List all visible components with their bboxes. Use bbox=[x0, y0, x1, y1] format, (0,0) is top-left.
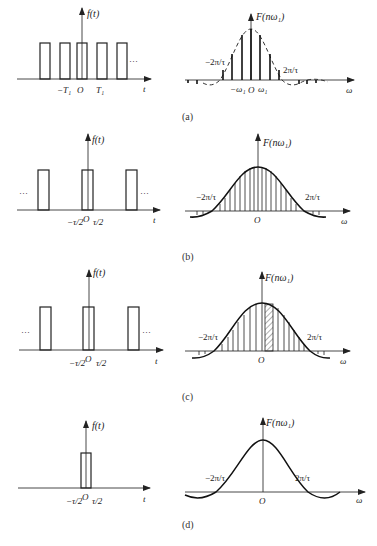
sinc-spectrum bbox=[185, 440, 340, 498]
tick-neg-tau-half: −τ/2 bbox=[67, 217, 84, 227]
x-axis-label: t bbox=[153, 215, 156, 225]
spectrum-plot-b: F(nω₁) −2π/τ 2π/τ O ω bbox=[185, 134, 350, 226]
tick-origin: O bbox=[82, 492, 89, 502]
ellipsis: … bbox=[129, 54, 138, 64]
spectrum-plot-d: F(nω₁) −2π/τ 2π/τ O ω bbox=[185, 417, 365, 506]
ellipsis-right: … bbox=[140, 186, 149, 196]
tick-tau-half: τ/2 bbox=[92, 496, 103, 506]
ellipsis-left: … bbox=[21, 325, 30, 335]
tick-origin: O bbox=[248, 85, 255, 95]
x-axis-label: ω bbox=[346, 85, 352, 95]
caption-c: (c) bbox=[182, 391, 193, 403]
y-axis-label: f(t) bbox=[92, 134, 105, 146]
y-axis-label: f(t) bbox=[92, 420, 105, 432]
panel-a: f(t) … −T₁ O T₁ t bbox=[17, 8, 354, 123]
tick-origin: O bbox=[258, 355, 265, 365]
y-axis-label: F(nω₁) bbox=[255, 11, 285, 23]
x-axis-label: t bbox=[143, 84, 146, 94]
tick-neg-T1: −T₁ bbox=[57, 85, 71, 95]
spectrum-plot-c: F(nω₁) −2π/τ 2π/τ O ω bbox=[185, 272, 350, 366]
spectrum-plot-a: F(nω₁) −2π/τ 2π/τ −ω₁ O ω₁ ω bbox=[185, 11, 354, 95]
x-axis-label: ω bbox=[340, 356, 346, 366]
zero-crossing-pos-label: 2π/τ bbox=[307, 332, 323, 342]
time-plot-c: f(t) … … −τ/2 O τ/2 t bbox=[19, 267, 163, 368]
y-axis-label: F(nω₁) bbox=[264, 272, 294, 284]
caption-b: (b) bbox=[182, 251, 194, 263]
y-axis-label: F(nω₁) bbox=[262, 137, 292, 149]
tick-origin: O bbox=[83, 214, 90, 224]
zero-crossing-pos-label: 2π/τ bbox=[283, 65, 299, 75]
panel-b: f(t) … … −τ/2 O τ/2 t bbox=[17, 134, 350, 263]
time-plot-d: f(t) −τ/2 O τ/2 t bbox=[18, 420, 150, 506]
pulse-train bbox=[38, 170, 137, 210]
tick-tau-half: τ/2 bbox=[93, 217, 104, 227]
time-plot-a: f(t) … −T₁ O T₁ t bbox=[17, 8, 151, 95]
panel-c: f(t) … … −τ/2 O τ/2 t bbox=[19, 267, 350, 403]
x-axis-label: t bbox=[143, 494, 146, 504]
tick-origin: O bbox=[85, 354, 92, 364]
tick-neg-tau-half: −τ/2 bbox=[69, 358, 86, 368]
tick-omega1: ω₁ bbox=[258, 84, 267, 94]
tick-origin: O bbox=[254, 215, 261, 225]
panel-d: f(t) −τ/2 O τ/2 t F(nω₁) −2π/τ 2π/τ O ω … bbox=[18, 417, 365, 531]
tick-origin: O bbox=[259, 496, 266, 506]
tick-origin: O bbox=[77, 85, 84, 95]
zero-crossing-neg-label: −2π/τ bbox=[205, 57, 226, 67]
y-axis-label: F(nω₁) bbox=[265, 417, 295, 429]
fourier-spectrum-figure: f(t) … −T₁ O T₁ t bbox=[0, 0, 377, 546]
tick-neg-tau-half: −τ/2 bbox=[66, 496, 83, 506]
pulse-train bbox=[40, 43, 127, 79]
zero-crossing-neg-label: −2π/τ bbox=[196, 192, 217, 202]
y-axis-label: f(t) bbox=[87, 8, 100, 20]
tick-T1: T₁ bbox=[96, 85, 104, 95]
x-axis-label: t bbox=[155, 356, 158, 366]
zero-crossing-neg-label: −2π/τ bbox=[198, 332, 219, 342]
caption-a: (a) bbox=[182, 111, 193, 123]
zero-crossing-neg-label: −2π/τ bbox=[205, 473, 226, 483]
x-axis-label: ω bbox=[341, 216, 347, 226]
y-axis-label: f(t) bbox=[93, 267, 106, 279]
hatched-strip bbox=[265, 304, 273, 351]
zero-crossing-pos-label: 2π/τ bbox=[305, 192, 321, 202]
tick-neg-omega1: −ω₁ bbox=[230, 84, 246, 94]
sinc-envelope bbox=[192, 303, 330, 358]
ellipsis-left: … bbox=[19, 186, 28, 196]
x-axis-label: ω bbox=[356, 495, 362, 505]
ellipsis-right: … bbox=[142, 325, 151, 335]
pulse-train bbox=[40, 307, 139, 350]
zero-crossing-pos-label: 2π/τ bbox=[295, 473, 311, 483]
tick-tau-half: τ/2 bbox=[96, 358, 107, 368]
caption-d: (d) bbox=[182, 519, 194, 531]
time-plot-b: f(t) … … −τ/2 O τ/2 t bbox=[17, 134, 160, 227]
